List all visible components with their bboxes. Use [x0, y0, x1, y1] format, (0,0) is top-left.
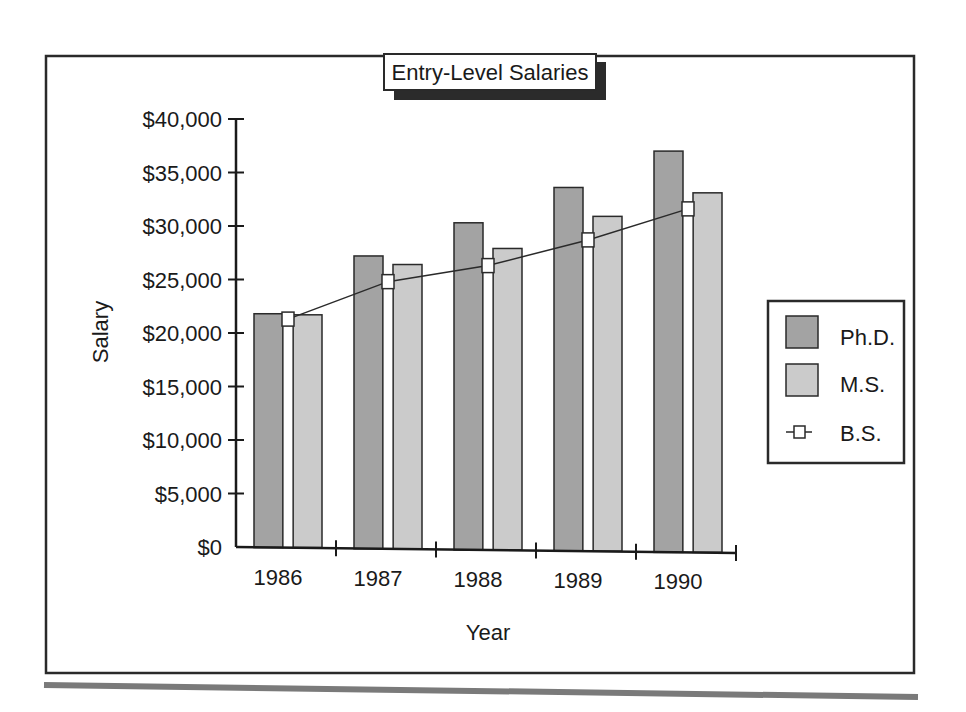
square-marker-icon [794, 426, 805, 438]
bar-bs-column [283, 325, 293, 547]
y-tick-label: $35,000 [142, 161, 222, 186]
bar-ms [493, 248, 522, 549]
y-tick-label: $30,000 [142, 214, 222, 239]
y-tick-label: $25,000 [142, 268, 222, 293]
bars-group [254, 151, 722, 552]
bs-point-marker [482, 259, 494, 273]
y-tick-label: $0 [198, 535, 222, 560]
legend: Ph.D. M.S. B.S. [768, 301, 904, 463]
bar-phd [354, 256, 383, 549]
legend-label-bs: B.S. [840, 421, 882, 446]
bar-bs-column [383, 288, 393, 549]
y-axis-label: Salary [88, 301, 113, 363]
bar-phd [254, 314, 283, 548]
bar-bs-column [583, 246, 593, 551]
bar-bs-column [483, 272, 493, 550]
legend-swatch-phd [786, 316, 818, 348]
bottom-divider [44, 685, 918, 697]
x-tick-label: 1986 [254, 565, 303, 590]
x-tick-label: 1987 [354, 566, 403, 591]
y-tick-label: $20,000 [142, 321, 222, 346]
bs-point-marker [382, 275, 394, 289]
chart-title: Entry-Level Salaries [392, 60, 589, 85]
y-tick-label: $5,000 [155, 482, 222, 507]
bar-ms [393, 265, 422, 549]
legend-label-ms: M.S. [840, 372, 885, 397]
bs-point-marker [582, 233, 594, 247]
bar-ms [293, 315, 322, 548]
y-tick-label: $40,000 [142, 107, 222, 132]
y-tick-label: $15,000 [142, 375, 222, 400]
entry-level-salaries-chart: Entry-Level Salaries Year Salary $0$5,00… [0, 0, 966, 712]
y-axis-ticks: $0$5,000$10,000$15,000$20,000$25,000$30,… [142, 107, 244, 560]
bs-point-marker [282, 312, 294, 326]
bar-bs-column [683, 215, 693, 552]
y-tick-label: $10,000 [142, 428, 222, 453]
bar-ms [693, 193, 722, 553]
x-tick-label: 1990 [654, 569, 703, 594]
legend-label-phd: Ph.D. [840, 325, 895, 350]
bar-ms [593, 216, 622, 551]
x-tick-label: 1988 [454, 567, 503, 592]
bs-point-marker [682, 202, 694, 216]
x-axis-label: Year [466, 620, 510, 645]
x-tick-label: 1989 [554, 568, 603, 593]
bar-phd [454, 223, 483, 550]
legend-swatch-ms [786, 364, 818, 396]
